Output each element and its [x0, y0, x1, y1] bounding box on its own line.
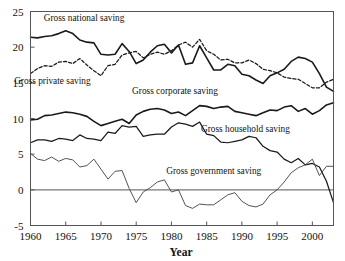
x-tick-label: 1995	[266, 230, 289, 242]
x-tick-label: 1965	[55, 230, 78, 242]
series-label-2: Gross corporate saving	[132, 86, 218, 96]
x-axis-tick-labels: 196019651970197519801985199019952000	[20, 230, 324, 242]
y-tick-label: -5	[14, 220, 24, 232]
x-tick-label: 1980	[160, 230, 183, 242]
x-tick-label: 1990	[231, 230, 254, 242]
series-label-1: Gross private saving	[14, 76, 91, 86]
plot-background	[0, 0, 345, 261]
y-tick-label: 0	[18, 184, 24, 196]
x-tick-label: 1985	[196, 230, 219, 242]
y-tick-label: 5	[18, 148, 24, 160]
x-tick-label: 1975	[125, 230, 148, 242]
y-tick-label: 10	[13, 113, 25, 125]
series-label-4: Gross government saving	[166, 166, 261, 176]
x-tick-label: 1970	[90, 230, 113, 242]
x-tick-label: 2000	[301, 230, 324, 242]
y-tick-label: 25	[13, 6, 25, 18]
chart-figure: 196019651970197519801985199019952000 -50…	[0, 0, 345, 261]
y-tick-label: 20	[13, 41, 25, 53]
x-axis-title: Year	[170, 246, 193, 258]
series-label-3: Gross household saving	[201, 124, 290, 134]
series-label-0: Gross national saving	[44, 13, 125, 23]
line-chart: 196019651970197519801985199019952000 -50…	[0, 0, 345, 261]
